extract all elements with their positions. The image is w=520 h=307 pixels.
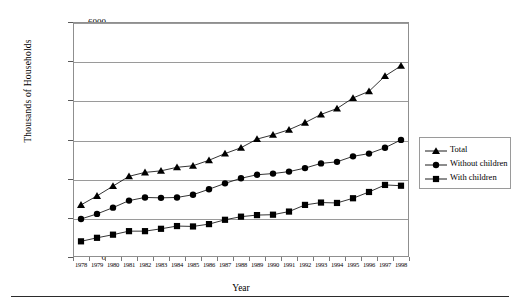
data-point-circle — [158, 195, 164, 201]
data-point-triangle — [381, 72, 389, 79]
data-point-square — [302, 202, 308, 208]
series-line — [81, 66, 401, 205]
data-point-triangle — [189, 162, 197, 169]
legend-label: Without children — [448, 158, 508, 168]
data-point-circle — [254, 172, 260, 178]
data-point-square — [142, 228, 148, 234]
legend-marker-triangle-icon — [424, 143, 448, 155]
data-point-circle — [190, 192, 196, 198]
legend-item-without-children[interactable]: Without children — [424, 156, 505, 170]
data-point-square — [433, 176, 439, 182]
x-tick-label: 1998 — [386, 261, 416, 268]
data-point-triangle — [93, 192, 101, 199]
data-point-square — [254, 212, 260, 218]
data-point-triangle — [333, 105, 341, 112]
data-point-square — [110, 232, 116, 238]
data-point-circle — [366, 150, 372, 156]
data-point-square — [126, 228, 132, 234]
data-point-triangle — [349, 94, 357, 101]
data-point-square — [190, 223, 196, 229]
series-with-children — [78, 182, 404, 245]
data-point-triangle — [285, 126, 293, 133]
data-point-circle — [302, 165, 308, 171]
data-point-circle — [94, 211, 100, 217]
data-point-circle — [350, 153, 356, 159]
data-point-triangle — [109, 182, 117, 189]
data-point-circle — [286, 168, 292, 174]
legend-item-with-children[interactable]: With children — [424, 170, 505, 184]
data-point-square — [78, 238, 84, 244]
bottom-divider — [11, 296, 509, 297]
data-point-square — [158, 226, 164, 232]
data-point-square — [222, 217, 228, 223]
series-layer — [73, 22, 409, 257]
data-point-triangle — [237, 144, 245, 151]
data-point-square — [350, 195, 356, 201]
data-point-triangle — [205, 156, 213, 163]
data-point-circle — [110, 204, 116, 210]
legend-marker-square-icon — [424, 171, 448, 183]
data-point-square — [206, 221, 212, 227]
data-point-circle — [78, 216, 84, 222]
chart-figure: Thousands of Households 0100020003000400… — [0, 0, 520, 307]
data-point-square — [286, 208, 292, 214]
data-point-triangle — [77, 201, 85, 208]
data-point-circle — [334, 159, 340, 165]
data-point-square — [318, 199, 324, 205]
x-axis-title: Year — [73, 283, 409, 293]
series-svg — [73, 22, 409, 257]
data-point-circle — [126, 197, 132, 203]
data-point-circle — [206, 186, 212, 192]
data-point-triangle — [221, 150, 229, 157]
y-axis-title: Thousands of Households — [23, 0, 33, 191]
chart-legend: TotalWithout childrenWith children — [419, 137, 511, 189]
legend-label: With children — [448, 172, 497, 182]
data-point-circle — [382, 145, 388, 151]
legend-item-total[interactable]: Total — [424, 142, 505, 156]
data-point-triangle — [317, 111, 325, 118]
data-point-square — [238, 214, 244, 220]
data-point-square — [334, 200, 340, 206]
data-point-square — [94, 235, 100, 241]
data-point-square — [270, 212, 276, 218]
data-point-circle — [238, 175, 244, 181]
data-point-square — [366, 189, 372, 195]
data-point-square — [174, 223, 180, 229]
data-point-triangle — [397, 62, 405, 69]
data-point-circle — [398, 137, 404, 143]
data-point-triangle — [301, 119, 309, 126]
data-point-circle — [142, 194, 148, 200]
data-point-circle — [174, 194, 180, 200]
data-point-square — [398, 183, 404, 189]
series-total — [77, 62, 405, 208]
data-point-circle — [318, 160, 324, 166]
data-point-triangle — [269, 131, 277, 138]
data-point-circle — [433, 162, 439, 168]
data-point-circle — [270, 170, 276, 176]
data-point-circle — [222, 180, 228, 186]
data-point-square — [382, 182, 388, 188]
legend-marker-circle-icon — [424, 157, 448, 169]
legend-label: Total — [448, 144, 467, 154]
